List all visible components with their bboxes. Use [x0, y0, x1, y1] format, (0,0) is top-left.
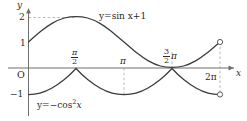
fraction-pi-over-2: π 2: [71, 49, 78, 67]
y-tick-label-1: 1: [20, 39, 26, 48]
x-tick-label-3pi-over-2: 3 2 π: [163, 48, 177, 66]
x-tick-label-2pi: 2π: [205, 73, 217, 82]
y-tick-label-2: 2: [19, 13, 25, 22]
fraction-denominator: 2: [163, 56, 170, 65]
open-point-cos-at-2pi: [217, 92, 222, 97]
math-plot-figure: y x O 2 1 −1 π 2 π 3 2 π 2π y=sin x+1 y=…: [0, 0, 247, 121]
fraction-denominator: 2: [71, 57, 78, 66]
fraction-three-over-two: 3 2: [163, 48, 170, 66]
x-tick-label-pi: π: [120, 57, 126, 66]
fraction-numerator: 3: [163, 48, 170, 56]
open-point-sine-at-2pi: [217, 39, 222, 44]
curve-label-sine: y=sin x+1: [99, 12, 146, 21]
curve-label-cosine-base: y=−cos: [37, 100, 72, 110]
x-tick-label-pi-over-2: π 2: [71, 49, 78, 67]
fraction-tail-pi: π: [170, 52, 177, 61]
curve-label-cosine: y=−cos2x: [37, 101, 81, 110]
y-tick-label-minus-1: −1: [10, 90, 23, 99]
y-axis-label: y: [17, 1, 22, 10]
x-axis-label: x: [236, 69, 241, 78]
curve-negative-cos-squared: [29, 69, 221, 95]
curve-label-cosine-variable: x: [76, 100, 81, 110]
origin-label: O: [17, 70, 25, 80]
x-axis-arrow: [229, 66, 235, 71]
y-axis-arrow: [26, 8, 31, 14]
fraction-numerator: π: [71, 49, 78, 57]
